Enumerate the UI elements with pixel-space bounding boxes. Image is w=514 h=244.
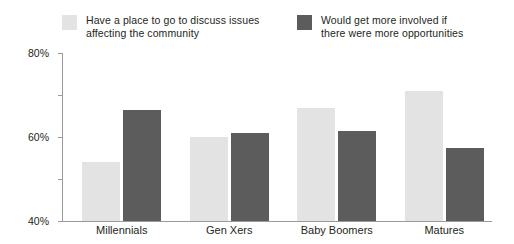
x-axis-label-gen-xers: Gen Xers <box>206 224 252 236</box>
bar-dark <box>446 148 484 222</box>
bar-chart: Have a place to go to discuss issues aff… <box>0 0 514 244</box>
bar-group <box>190 53 269 221</box>
x-axis-label-matures: Matures <box>424 224 464 236</box>
bar-light <box>82 162 120 221</box>
x-axis-line <box>62 221 492 222</box>
x-axis-label-millennials: Millennials <box>96 224 147 236</box>
legend-item-more-involved: Would get more involved if there were mo… <box>297 14 463 39</box>
bar-group <box>82 53 161 221</box>
legend-label-have-a-place: Have a place to go to discuss issues aff… <box>86 14 259 39</box>
legend-swatch-dark <box>297 15 312 30</box>
bar-group <box>297 53 376 221</box>
y-axis-tick-label: 80% <box>28 47 49 59</box>
y-axis-tick-label: 40% <box>28 215 49 227</box>
bar-group <box>405 53 484 221</box>
bar-series-container <box>62 53 492 221</box>
y-axis-tick-label: 60% <box>28 131 49 143</box>
x-axis-category-labels: MillennialsGen XersBaby BoomersMatures <box>62 224 492 242</box>
bar-dark <box>338 131 376 221</box>
legend-item-have-a-place: Have a place to go to discuss issues aff… <box>62 14 259 39</box>
y-axis-tick: 0% <box>58 221 62 222</box>
bar-dark <box>123 110 161 221</box>
legend-swatch-light <box>62 15 77 30</box>
x-axis-label-baby-boomers: Baby Boomers <box>301 224 373 236</box>
bar-light <box>405 91 443 221</box>
bar-light <box>190 137 228 221</box>
chart-legend: Have a place to go to discuss issues aff… <box>0 10 514 50</box>
bar-dark <box>231 133 269 221</box>
legend-label-more-involved: Would get more involved if there were mo… <box>321 14 463 39</box>
plot-area: 0%20%40%60%80% <box>62 53 492 221</box>
bar-light <box>297 108 335 221</box>
